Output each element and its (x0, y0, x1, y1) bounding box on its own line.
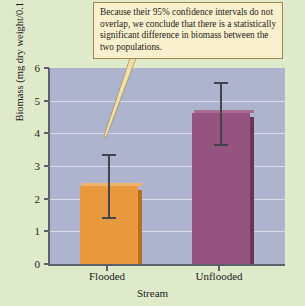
annotation-callout: Because their 95% confidence intervals d… (93, 2, 283, 59)
y-tick-label-2: 2 (18, 193, 40, 205)
error-bar-flooded-lower-cap (102, 217, 116, 219)
y-tickmark-4 (44, 132, 49, 134)
error-bar-unflooded-stem (220, 82, 222, 146)
y-tickmark-2 (44, 198, 49, 200)
callout-pointer (96, 58, 140, 138)
gridline-5 (50, 101, 285, 102)
callout-pointer-svg (96, 58, 140, 138)
y-tick-label-3: 3 (18, 160, 40, 172)
bar-chart-figure: 6 5 4 3 2 1 0 Biomass (mg dry weight/0.1… (0, 0, 305, 306)
bar-flooded-side-face (138, 190, 142, 264)
x-tick-label-flooded: Flooded (89, 270, 125, 282)
y-tickmark-5 (44, 100, 49, 102)
error-bar-flooded-upper-cap (102, 154, 116, 156)
bar-unflooded-side-face (250, 117, 254, 264)
y-tickmark-3 (44, 165, 49, 167)
error-bar-unflooded-lower-cap (214, 144, 228, 146)
y-tickmark-0 (44, 263, 49, 265)
y-tickmark-6 (44, 67, 49, 69)
y-tick-label-1: 1 (18, 225, 40, 237)
error-bar-unflooded-upper-cap (214, 82, 228, 84)
error-bar-flooded-stem (108, 154, 110, 219)
y-axis-label-text: Biomass (mg dry weight/0.1 m (14, 0, 25, 122)
y-tickmark-1 (44, 230, 49, 232)
x-tick-label-unflooded: Unflooded (195, 270, 242, 282)
x-axis-label: Stream (0, 287, 305, 299)
y-tick-label-0: 0 (18, 258, 40, 270)
plot-area (48, 68, 285, 266)
y-axis-label: Biomass (mg dry weight/0.1 m2) (11, 0, 25, 143)
